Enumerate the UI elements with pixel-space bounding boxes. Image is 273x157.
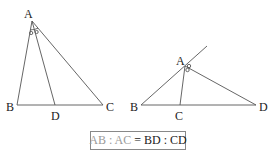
- label-b-right: B: [130, 100, 138, 114]
- label-d-left: D: [51, 109, 60, 123]
- formula-box: AB : AC = BD : CD: [90, 131, 186, 150]
- angle-mark-2: [34, 28, 38, 30]
- label-d-right: D: [259, 100, 268, 114]
- formula-right: BD : CD: [144, 133, 187, 148]
- label-a-right: A: [176, 54, 185, 68]
- label-b-left: B: [6, 100, 14, 114]
- side-ac: [180, 66, 185, 105]
- formula-left: AB : AC: [89, 133, 131, 148]
- formula-equals: =: [134, 133, 141, 148]
- side-ba-extended: [141, 46, 207, 105]
- angle-circle-2: [35, 30, 38, 33]
- right-triangle: [141, 46, 256, 105]
- external-bisector-ad: [185, 66, 256, 105]
- angle-circle-1: [187, 64, 190, 67]
- side-ac: [32, 21, 103, 105]
- label-a-left: A: [24, 7, 33, 21]
- label-c-left: C: [106, 100, 114, 114]
- label-c-right: C: [175, 109, 183, 123]
- angle-circle-2: [186, 68, 189, 71]
- left-triangle: [17, 21, 103, 105]
